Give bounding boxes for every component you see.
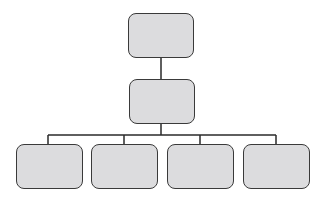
child-node-4: [243, 144, 310, 189]
level2-node: [129, 79, 195, 124]
child-node-3: [167, 144, 234, 189]
root-node: [128, 13, 194, 58]
child-node-2: [91, 144, 158, 189]
child-node-1: [16, 144, 83, 189]
